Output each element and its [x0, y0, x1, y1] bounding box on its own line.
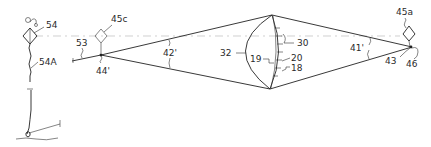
- left-lead-line: [72, 55, 101, 61]
- right-angle-arc-top: [369, 38, 371, 45]
- label-19-leader: [263, 59, 274, 63]
- label-54a: 54A: [39, 57, 57, 67]
- left-diamond-leader: [104, 25, 112, 32]
- post-54a-leader: [31, 62, 38, 68]
- label-53: 53: [76, 38, 87, 48]
- patent-diagram: 54 54A 45c 53 44' 42': [0, 0, 431, 147]
- label-54: 54: [46, 20, 58, 30]
- label-20-leader: [282, 58, 290, 61]
- label-45a: 45a: [396, 7, 413, 17]
- sight-lines: [101, 15, 412, 89]
- label-41-prime: 41': [350, 43, 364, 53]
- outer-arc: [245, 15, 272, 89]
- right-vertex-point: [410, 46, 413, 49]
- label-45a-leader: [404, 18, 406, 28]
- label-32: 32: [220, 48, 231, 58]
- right-diamond-icon: [403, 26, 415, 41]
- left-lower-ray: [101, 55, 270, 89]
- lens: 32 19 20 18 30: [220, 15, 309, 89]
- left-angle-arc-top: [169, 40, 170, 46]
- base-brace: [29, 124, 60, 133]
- post-wavy-line: [29, 44, 31, 82]
- left-angle: 42': [163, 40, 177, 68]
- label-44-leader: [100, 56, 102, 63]
- label-43: 43: [385, 56, 396, 66]
- post-top-hook: [30, 19, 36, 24]
- label-42-prime: 42': [163, 48, 177, 58]
- right-upper-ray: [272, 15, 412, 47]
- label-46: 46: [406, 59, 418, 69]
- left-marker: 45c 53 44': [72, 14, 127, 76]
- post-top-loop: [26, 18, 31, 23]
- label-19: 19: [250, 54, 262, 64]
- label-30-leader: [283, 34, 294, 43]
- label-18: 18: [291, 63, 303, 73]
- post-top-ring: [35, 24, 38, 27]
- ground-line: [16, 138, 58, 140]
- label-45c: 45c: [111, 14, 127, 24]
- right-angle: 41': [350, 38, 371, 59]
- label-44-prime: 44': [96, 66, 110, 76]
- label-30: 30: [297, 38, 309, 48]
- post-lower-line: [27, 90, 31, 134]
- label-18-leader: [282, 67, 290, 71]
- label-20: 20: [291, 53, 303, 63]
- post-leader: [34, 27, 44, 33]
- label-53-leader: [81, 48, 83, 58]
- right-angle-arc-bottom: [368, 50, 370, 59]
- left-angle-arc-bottom: [169, 58, 170, 68]
- right-marker: 45a 43 46: [385, 7, 418, 69]
- label-46-leader: [412, 48, 418, 60]
